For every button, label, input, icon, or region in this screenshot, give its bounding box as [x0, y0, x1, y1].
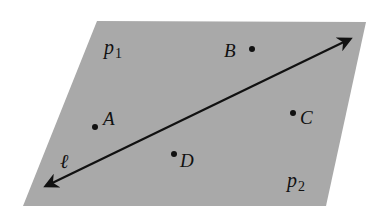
point-label-A: A — [101, 108, 115, 129]
point-label-D: D — [179, 150, 194, 171]
point-dot-C — [290, 110, 296, 116]
point-dot-B — [249, 46, 255, 52]
point-dot-D — [171, 151, 177, 157]
geometry-diagram: p1p2 ℓ ABCD — [0, 0, 384, 217]
point-dot-A — [92, 124, 98, 130]
line-label: ℓ — [60, 150, 69, 172]
point-label-C: C — [300, 107, 313, 128]
point-label-B: B — [224, 40, 236, 61]
